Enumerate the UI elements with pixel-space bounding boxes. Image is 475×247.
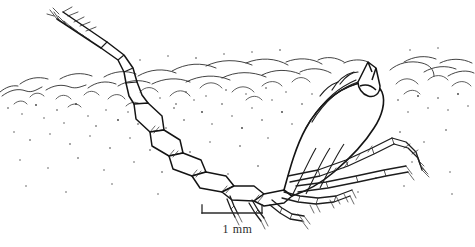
drawing-background: [0, 0, 475, 247]
scalebar-label: 1 mm: [0, 222, 475, 237]
figure-container: 1 mm: [0, 0, 475, 247]
crustacean-line-drawing: [0, 0, 475, 247]
